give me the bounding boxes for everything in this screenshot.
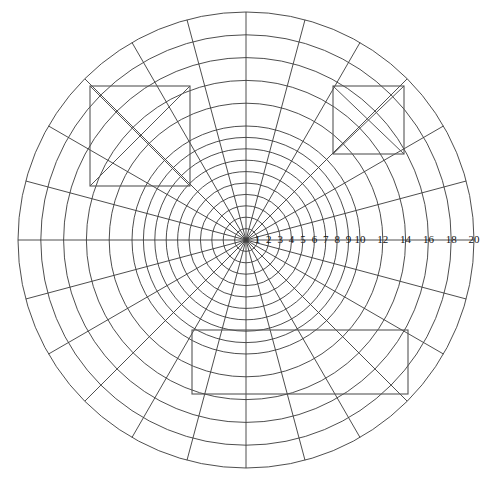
radial-tick-label: 5 [300,233,306,245]
grid-spoke [187,240,246,460]
radial-tick-label: 12 [377,233,388,245]
radial-tick-label: 14 [400,233,412,245]
radial-tick-label: 10 [355,233,367,245]
radial-tick-label: 1 [255,233,261,245]
grid-spoke [85,240,246,401]
radial-tick-label: 2 [266,233,272,245]
radial-tick-label: 4 [289,233,295,245]
radial-tick-labels: 123456789101214161820 [255,233,480,245]
polar-grid-figure: 123456789101214161820 [0,0,504,479]
radial-tick-label: 9 [346,233,352,245]
radial-tick-label: 8 [334,233,340,245]
grid-spoke [132,43,246,240]
grid-spoke [26,181,246,240]
polar-chart-canvas: 123456789101214161820 [0,0,504,479]
grid-spoke [246,240,407,401]
radial-tick-label: 3 [277,233,283,245]
grid-spoke [26,240,246,299]
grid-spoke [246,43,360,240]
grid-spoke [246,240,305,460]
grid-spoke [49,240,246,354]
grid-spoke [246,240,466,299]
bottom-box [192,330,408,394]
radial-tick-label: 16 [423,233,435,245]
grid-spoke [85,79,246,240]
radial-tick-label: 18 [446,233,458,245]
grid-spoke [187,20,246,240]
grid-spoke [246,20,305,240]
radial-tick-label: 20 [469,233,481,245]
grid-spoke [246,240,360,437]
grid-spoke [246,181,466,240]
grid-spoke [132,240,246,437]
radial-tick-label: 7 [323,233,329,245]
radial-tick-label: 6 [312,233,318,245]
grid-spoke [246,240,443,354]
grid-spoke [246,79,407,240]
